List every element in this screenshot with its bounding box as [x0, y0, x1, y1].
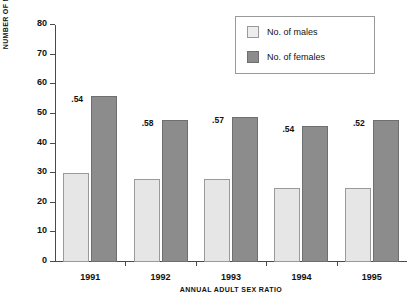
bar-1991-females — [91, 96, 117, 262]
y-axis-tick: 40 — [50, 143, 55, 144]
y-axis-tick-label: 10 — [37, 225, 47, 235]
bar-chart: NUMBER OF MALES AND FEMALES 010203040506… — [0, 0, 417, 303]
bar-1993-males — [204, 179, 230, 262]
y-axis-title: NUMBER OF MALES AND FEMALES — [0, 0, 12, 74]
ratio-annotation-1995: .52 — [353, 118, 365, 128]
bar-1993-females — [232, 117, 258, 262]
bar-1992-males — [134, 179, 160, 262]
y-axis-tick-label: 30 — [37, 166, 47, 176]
bar-1992-females — [162, 120, 188, 262]
legend-swatch-females-icon — [247, 51, 259, 63]
bar-1995-females — [373, 120, 399, 262]
y-axis-tick: 20 — [50, 202, 55, 203]
x-axis-tick-label-1993: 1993 — [221, 272, 241, 282]
ratio-annotation-1992: .58 — [142, 118, 154, 128]
x-axis-tick-label-1992: 1992 — [151, 272, 171, 282]
y-axis-tick-label: 20 — [37, 196, 47, 206]
y-axis-tick: 50 — [50, 113, 55, 114]
chart-legend: No. of males No. of females — [235, 16, 375, 74]
x-axis-tick-label-1995: 1995 — [362, 272, 382, 282]
y-axis-tick-label: 60 — [37, 77, 47, 87]
legend-item-females: No. of females — [247, 50, 325, 64]
x-axis-tick — [196, 262, 197, 266]
y-axis-tick: 60 — [50, 83, 55, 84]
bar-1991-males — [63, 173, 89, 262]
x-axis-title: ANNUAL ADULT SEX RATIO — [55, 286, 407, 293]
ratio-annotation-1993: .57 — [212, 115, 224, 125]
legend-label-females: No. of females — [267, 52, 325, 62]
y-axis-line — [55, 25, 56, 262]
ratio-annotation-1994: .54 — [282, 124, 294, 134]
y-axis-tick: 10 — [50, 231, 55, 232]
x-axis-tick — [337, 262, 338, 266]
y-axis-tick-label: 40 — [37, 137, 47, 147]
y-axis-tick: 30 — [50, 172, 55, 173]
bar-1994-males — [274, 188, 300, 262]
y-axis-tick-label: 0 — [42, 255, 47, 265]
y-axis-tick: 80 — [50, 24, 55, 25]
x-axis-tick-label-1991: 1991 — [80, 272, 100, 282]
legend-label-males: No. of males — [267, 27, 318, 37]
x-axis-tick-label-1994: 1994 — [291, 272, 311, 282]
x-axis-tick — [266, 262, 267, 266]
legend-item-males: No. of males — [247, 25, 318, 39]
ratio-annotation-1991: .54 — [71, 94, 83, 104]
x-axis-tick — [125, 262, 126, 266]
y-axis-tick-label: 50 — [37, 107, 47, 117]
y-axis-tick: 70 — [50, 54, 55, 55]
bar-1995-males — [345, 188, 371, 262]
y-axis-tick-label: 70 — [37, 48, 47, 58]
legend-swatch-males-icon — [247, 26, 259, 38]
y-axis-tick-label: 80 — [37, 18, 47, 28]
bar-1994-females — [302, 126, 328, 262]
y-axis-tick: 0 — [50, 261, 55, 262]
